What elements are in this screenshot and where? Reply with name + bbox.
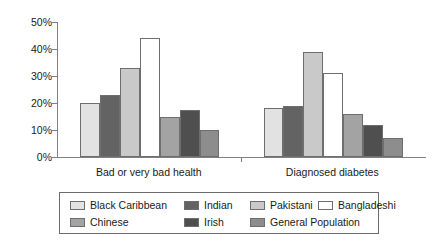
legend-swatch-icon [70,201,85,210]
legend-swatch-icon [318,201,333,210]
legend-swatch-icon [70,218,85,227]
bar [120,68,140,157]
bar [180,110,200,157]
legend-item[interactable]: Bangladeshi [318,200,396,211]
x-axis-line [52,157,426,158]
legend-item[interactable]: General Population [250,217,360,228]
bar [264,108,284,157]
bar-chart: 0%10%20%30%40%50% Bad or very bad health… [0,0,435,245]
y-axis-tick-label: 20% [31,98,52,109]
legend-item[interactable]: Irish [184,217,224,228]
y-axis-tick-label: 50% [31,17,52,28]
y-axis-tick-label: 30% [31,71,52,82]
bar [80,103,100,157]
y-axis-labels: 0%10%20%30%40%50% [0,0,52,160]
bar [363,125,383,157]
bar [140,38,160,157]
legend-label: Irish [204,217,224,228]
legend-item[interactable]: Indian [184,200,233,211]
y-axis-tick-label: 40% [31,44,52,55]
plot-area [57,22,425,157]
legend: Black CaribbeanIndianPakistaniBangladesh… [59,192,379,234]
bar [100,95,120,157]
legend-item[interactable]: Black Caribbean [70,200,167,211]
legend-swatch-icon [184,218,199,227]
y-axis-tick [52,103,57,104]
x-axis-tick [241,157,242,162]
y-axis-tick [52,157,57,158]
legend-swatch-icon [184,201,199,210]
legend-item[interactable]: Chinese [70,217,129,228]
y-axis-tick [52,130,57,131]
bar [283,106,303,157]
legend-swatch-icon [250,201,265,210]
bars-layer [58,22,425,157]
y-axis-tick-label: 10% [31,125,52,136]
y-axis-tick [52,49,57,50]
legend-label: General Population [270,217,360,228]
legend-swatch-icon [250,218,265,227]
y-axis-tick-label: 0% [37,152,52,163]
legend-label: Indian [204,200,233,211]
x-axis-category-label: Bad or very bad health [57,166,241,178]
bar [303,52,323,157]
bar [160,117,180,158]
legend-label: Chinese [90,217,129,228]
bar [323,73,343,157]
legend-label: Black Caribbean [90,200,167,211]
y-axis-tick [52,76,57,77]
y-axis-tick [52,22,57,23]
bar [383,138,403,157]
bar [200,130,220,157]
x-axis-category-label: Diagnosed diabetes [241,166,425,178]
legend-label: Pakistani [270,200,313,211]
legend-label: Bangladeshi [338,200,396,211]
legend-item[interactable]: Pakistani [250,200,313,211]
bar [343,114,363,157]
